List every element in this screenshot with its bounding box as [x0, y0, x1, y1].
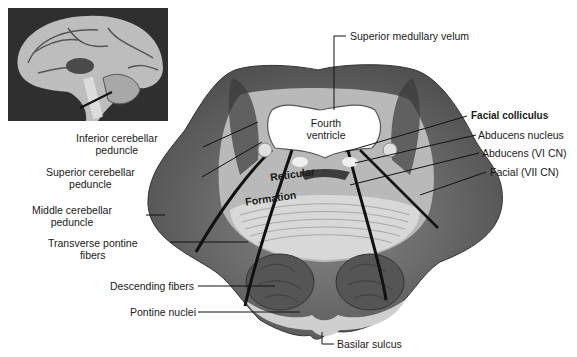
label-line: Inferior cerebellar: [76, 132, 158, 144]
label-pontine-nuclei: Pontine nuclei: [130, 306, 196, 318]
label-abducens-nucleus: Abducens nucleus: [478, 129, 564, 141]
pons-cross-section-figure: Inferior cerebellar peduncle Superior ce…: [0, 0, 577, 357]
label-facial-nerve: Facial (VII CN): [490, 166, 559, 178]
label-line: Pontine nuclei: [130, 306, 196, 318]
label-basilar-sulcus: Basilar sulcus: [337, 338, 402, 350]
label-line: peduncle: [76, 144, 158, 156]
label-descending-fibers: Descending fibers: [110, 280, 194, 292]
label-line: peduncle: [46, 178, 135, 190]
label-superior-medullary-velum: Superior medullary velum: [350, 30, 469, 42]
label-line: ventricle: [306, 129, 346, 141]
label-middle-cerebellar-peduncle: Middle cerebellar peduncle: [32, 204, 112, 228]
label-facial-colliculus: Facial colliculus: [471, 110, 548, 122]
label-line: Middle cerebellar: [32, 204, 112, 216]
label-line: Fourth: [306, 117, 346, 129]
label-line: fibers: [48, 249, 138, 261]
label-superior-cerebellar-peduncle: Superior cerebellar peduncle: [46, 166, 135, 190]
label-inferior-cerebellar-peduncle: Inferior cerebellar peduncle: [76, 132, 158, 156]
label-fourth-ventricle: Fourth ventricle: [306, 117, 346, 141]
label-abducens-nerve: Abducens (VI CN): [482, 147, 567, 159]
label-transverse-pontine-fibers: Transverse pontine fibers: [48, 237, 138, 261]
label-line: Transverse pontine: [48, 237, 138, 249]
label-line: Superior cerebellar: [46, 166, 135, 178]
label-line: peduncle: [32, 216, 112, 228]
label-line: Descending fibers: [110, 280, 194, 292]
